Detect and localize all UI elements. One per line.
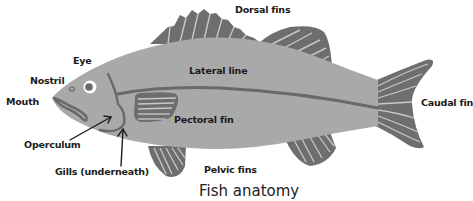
- label-lateral-line: Lateral line: [189, 65, 247, 76]
- pelvic-fin-front: [148, 146, 186, 177]
- label-dorsal-fins: Dorsal fins: [235, 4, 290, 15]
- label-operculum: Operculum: [24, 139, 81, 150]
- label-pelvic-fins: Pelvic fins: [204, 164, 257, 175]
- label-nostril: Nostril: [30, 75, 64, 86]
- label-pectoral-fin: Pectoral fin: [174, 114, 234, 125]
- eye: [84, 81, 97, 94]
- label-eye: Eye: [73, 55, 92, 66]
- label-caudal-fin: Caudal fin: [421, 97, 473, 108]
- label-gills: Gills (underneath): [55, 166, 149, 177]
- label-mouth: Mouth: [6, 96, 39, 107]
- diagram-title: Fish anatomy: [199, 182, 299, 200]
- gills-arrow: [118, 129, 127, 166]
